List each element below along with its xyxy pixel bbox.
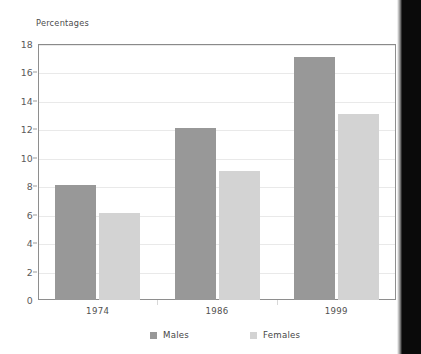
page-edge-black-band xyxy=(402,0,421,354)
y-axis-tick-label: 6 xyxy=(0,209,33,220)
bar-females-1986 xyxy=(219,171,260,300)
y-axis-tick-label: 12 xyxy=(0,124,33,135)
legend-label: Males xyxy=(163,330,189,340)
chart-title: Percentages xyxy=(36,18,89,28)
bar-males-1974 xyxy=(55,185,96,300)
bar-females-1999 xyxy=(338,114,379,300)
y-axis-tick-label: 18 xyxy=(0,39,33,50)
y-axis-tick-label: 2 xyxy=(0,266,33,277)
x-axis: 197419861999 xyxy=(38,300,396,324)
legend-item-males[interactable]: Males xyxy=(150,330,189,340)
chart-page: Percentages 024681012141618 197419861999… xyxy=(0,0,421,354)
y-axis-tick-mark xyxy=(33,157,37,158)
y-axis-tick-mark xyxy=(33,243,37,244)
y-axis-tick-mark xyxy=(33,100,37,101)
x-axis-tick-mark xyxy=(157,300,158,305)
x-axis-tick-mark xyxy=(277,300,278,305)
y-axis-tick-label: 16 xyxy=(0,67,33,78)
bar-males-1999 xyxy=(294,57,335,300)
x-axis-category-label: 1986 xyxy=(205,306,228,316)
bar-series-group xyxy=(38,44,396,300)
y-axis-tick-mark xyxy=(33,271,37,272)
y-axis-tick-mark xyxy=(33,214,37,215)
x-axis-category-label: 1974 xyxy=(86,306,109,316)
legend-swatch-males xyxy=(150,332,157,339)
legend-item-females[interactable]: Females xyxy=(250,330,300,340)
y-axis-tick-mark xyxy=(33,186,37,187)
y-axis-tick-mark xyxy=(33,72,37,73)
y-axis-tick-label: 8 xyxy=(0,181,33,192)
y-axis-tick-label: 0 xyxy=(0,295,33,306)
bar-males-1986 xyxy=(175,128,216,300)
y-axis-tick-label: 4 xyxy=(0,238,33,249)
bar-females-1974 xyxy=(99,213,140,300)
legend-label: Females xyxy=(263,330,300,340)
legend-swatch-females xyxy=(250,332,257,339)
y-axis: 024681012141618 xyxy=(0,44,33,300)
y-axis-tick-label: 14 xyxy=(0,95,33,106)
x-axis-category-label: 1999 xyxy=(325,306,348,316)
y-axis-tick-mark xyxy=(33,129,37,130)
y-axis-tick-label: 10 xyxy=(0,152,33,163)
chart-legend: MalesFemales xyxy=(38,330,396,346)
